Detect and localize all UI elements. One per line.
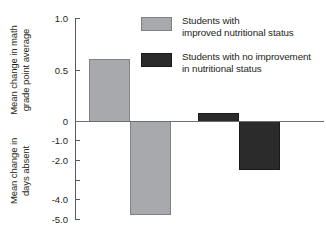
lower-axis-title-line-2: days absent [20,123,32,219]
tick-mark-0.5 [76,70,80,71]
lower-axis-title-line-1: Mean change in [8,123,20,219]
dark-swatch-icon [141,53,172,67]
legend-improved-line-1: Students with [182,15,326,27]
legend-no-improvement-line-1: Students with no improvement [182,51,326,63]
lower-panel-axis-title: Mean change in days absent [8,123,31,219]
bar-no-improvement-days-absent [239,121,280,170]
bar-improved-days-absent [130,121,171,215]
chart-legend: Students with improved nutritional statu… [141,15,326,87]
legend-item-improved: Students with improved nutritional statu… [141,15,326,41]
legend-item-improved-label: Students with improved nutritional statu… [182,15,326,38]
y-axis-top-cap [76,18,80,19]
light-gray-swatch-icon [141,17,172,31]
tick-label-neg1.0: -1.0 [38,136,68,146]
tick-label-neg5.0: -5.0 [38,215,68,225]
tick-label-neg4.0: -4.0 [38,195,68,205]
legend-improved-line-2: improved nutritional status [182,27,326,39]
upper-axis-title-line-1: Mean change in math [8,18,20,122]
upper-axis-title-line-2: grade point average [20,18,32,122]
upper-panel-axis-title: Mean change in math grade point average [8,18,31,122]
tick-mark-neg2 [76,160,80,161]
tick-label-neg2.0: -2.0 [38,156,68,166]
tick-mark-neg1 [76,140,80,141]
y-axis-spine [75,18,76,220]
y-axis-bottom-cap [76,219,80,220]
tick-mark-neg4 [76,199,80,200]
tick-label-0.5: 0.5 [38,66,68,76]
legend-item-no-improvement-label: Students with no improvement in nutritio… [182,51,326,74]
tick-label-1.0: 1.0 [38,14,68,24]
legend-item-no-improvement: Students with no improvement in nutritio… [141,51,326,77]
legend-no-improvement-line-2: in nutritional status [182,63,326,75]
zero-baseline [75,121,324,122]
tick-label-0: 0 [38,117,68,127]
tick-mark-neg3 [76,180,80,181]
bar-chart: Mean change in math grade point average … [0,0,326,231]
bar-improved-gpa [89,59,130,122]
